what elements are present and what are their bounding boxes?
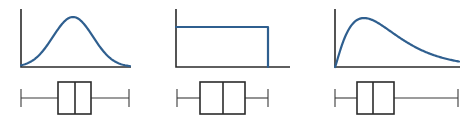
- panel-uniform: [176, 9, 290, 114]
- panel-symmetric: [21, 9, 131, 114]
- boxplot-uniform: [177, 82, 268, 114]
- panel-right-skewed: [335, 9, 460, 114]
- iqr-box: [357, 82, 394, 114]
- boxplot-symmetric: [21, 82, 129, 114]
- density-curve: [21, 17, 130, 66]
- density-plot-symmetric: [21, 9, 131, 67]
- axes: [176, 9, 290, 67]
- boxplot-right-skewed: [335, 82, 458, 114]
- distribution-figure: [0, 0, 475, 123]
- density-plot-uniform: [176, 9, 290, 67]
- density-plot-right-skewed: [335, 9, 460, 67]
- density-curve: [335, 18, 459, 67]
- density-curve: [176, 27, 268, 67]
